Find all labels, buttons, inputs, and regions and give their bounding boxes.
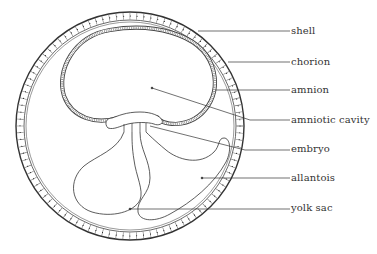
label-chorion: chorion: [291, 56, 330, 68]
amniotic-egg-diagram: shell chorion amnion amniotic cavity emb…: [0, 0, 377, 254]
label-allantois: allantois: [291, 172, 335, 184]
egg-illustration: [0, 0, 377, 254]
leader-amniotic-cavity: [152, 88, 290, 120]
label-amniotic-cavity: amniotic cavity: [291, 114, 370, 126]
leader-embryo: [150, 126, 290, 150]
label-shell: shell: [291, 25, 315, 37]
embryo: [106, 112, 162, 132]
label-amnion: amnion: [291, 84, 329, 96]
label-yolk-sac: yolk sac: [291, 202, 333, 214]
amnion: [62, 28, 215, 124]
label-embryo: embryo: [291, 143, 330, 155]
shell: [16, 12, 244, 240]
yolk-sac: [74, 132, 142, 214]
allantois: [138, 132, 230, 220]
